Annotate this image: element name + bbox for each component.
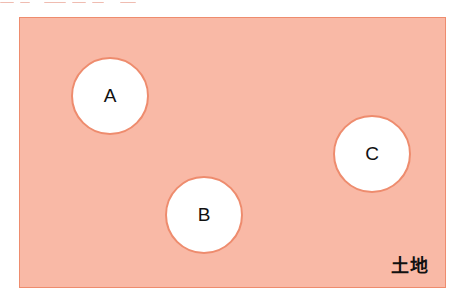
circle-a-label: A	[104, 85, 117, 107]
circle-a: A	[71, 57, 149, 135]
circle-c-label: C	[365, 143, 379, 165]
circle-b: B	[165, 176, 243, 254]
cropped-heading-text	[0, 0, 150, 3]
circle-b-label: B	[198, 204, 211, 226]
land-label: 土地	[391, 251, 429, 277]
circle-c: C	[333, 115, 411, 193]
land-area: A B C 土地	[19, 17, 446, 288]
